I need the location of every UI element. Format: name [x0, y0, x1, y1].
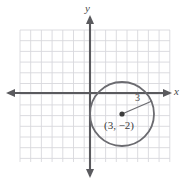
y-axis-arrow-down-icon — [86, 169, 94, 178]
x-axis-label: x — [174, 85, 179, 97]
y-axis-label: y — [85, 2, 90, 14]
x-axis-arrow-right-icon — [163, 89, 172, 97]
circle-center-coordinate-label: (3, −2) — [104, 119, 134, 131]
x-axis-arrow-left-icon — [6, 89, 15, 97]
radius-length-label: 3 — [135, 92, 140, 103]
circle-center-point — [119, 111, 124, 116]
circle-graph-figure: x y 3 (3, −2) — [0, 0, 189, 179]
y-axis-arrow-up-icon — [86, 15, 94, 24]
graph-canvas — [0, 0, 189, 179]
